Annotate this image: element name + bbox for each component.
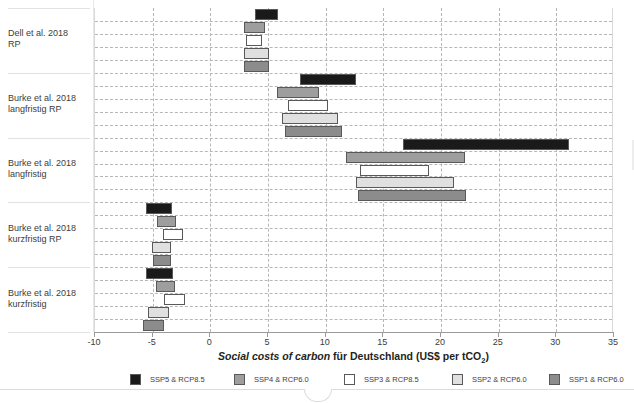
x-tick-label: -5	[148, 337, 156, 347]
gridline-horizontal	[95, 34, 612, 35]
gridline-horizontal	[95, 125, 612, 126]
range-bar	[153, 255, 171, 266]
gridline-horizontal	[95, 60, 612, 61]
viewer-bottom-bar	[0, 389, 634, 403]
range-bar	[288, 100, 328, 111]
legend-item[interactable]: SSP1 & RCP6.0	[549, 372, 624, 386]
legend-swatch-icon	[130, 374, 141, 385]
gridline-horizontal	[95, 254, 612, 255]
gridline-horizontal	[95, 306, 612, 307]
range-bar	[282, 113, 339, 124]
gridline-vertical	[556, 8, 557, 332]
range-bar	[300, 74, 355, 85]
legend: SSP5 & RCP8.5SSP4 & RCP6.0SSP3 & RCP8.5S…	[94, 372, 613, 386]
range-bar	[356, 177, 454, 188]
range-bar	[403, 139, 569, 150]
gridline-vertical	[441, 8, 442, 332]
gridline-vertical	[499, 8, 500, 332]
gridline-vertical	[153, 8, 154, 332]
gridline-vertical	[326, 8, 327, 332]
category-label-line1: Dell et al. 2018	[8, 28, 90, 39]
legend-item[interactable]: SSP5 & RCP8.5	[130, 372, 205, 386]
x-tick-label: 15	[377, 337, 387, 347]
range-bar	[246, 35, 262, 46]
range-bar	[358, 190, 466, 201]
category-label-line2: kurzfristig	[8, 299, 90, 310]
category-separator	[8, 73, 90, 74]
range-bar	[277, 87, 319, 98]
legend-label: SSP1 & RCP6.0	[569, 375, 624, 384]
gridline-horizontal	[95, 202, 612, 203]
category-label-line2: kurzfristig RP	[8, 234, 90, 245]
gridline-horizontal	[95, 176, 612, 177]
gridline-horizontal	[95, 47, 612, 48]
x-tick-label: 10	[320, 337, 330, 347]
range-bar	[146, 203, 173, 214]
category-label: Burke et al. 2018kurzfristig RP	[8, 223, 90, 245]
range-bar	[255, 9, 278, 20]
range-bar	[157, 216, 175, 227]
category-label: Dell et al. 2018RP	[8, 28, 90, 50]
category-label: Burke et al. 2018langfristig	[8, 158, 90, 180]
gridline-horizontal	[95, 164, 612, 165]
range-bar	[244, 22, 265, 33]
x-tick-label: 0	[207, 337, 212, 347]
range-bar	[244, 61, 269, 72]
range-bar	[164, 294, 185, 305]
x-tick-label: 25	[493, 337, 503, 347]
category-label-line2: langfristig RP	[8, 104, 90, 115]
x-axis-unit-prefix: (US$ per tCO	[416, 350, 481, 362]
category-label: Burke et al. 2018langfristig RP	[8, 93, 90, 115]
gridline-horizontal	[95, 99, 612, 100]
category-label-line2: langfristig	[8, 169, 90, 180]
gridline-horizontal	[95, 86, 612, 87]
x-tick-label: -10	[87, 337, 100, 347]
legend-swatch-icon	[549, 374, 560, 385]
plot-area	[94, 8, 613, 332]
legend-item[interactable]: SSP2 & RCP6.0	[452, 372, 527, 386]
gridline-horizontal	[95, 319, 612, 320]
range-bar	[156, 281, 174, 292]
legend-item[interactable]: SSP3 & RCP8.5	[344, 372, 419, 386]
x-tick-label: 20	[435, 337, 445, 347]
legend-label: SSP2 & RCP6.0	[472, 375, 527, 384]
category-separator	[8, 202, 90, 203]
x-tick-label: 35	[608, 337, 618, 347]
x-tick-label: 5	[264, 337, 269, 347]
legend-label: SSP4 & RCP6.0	[254, 375, 309, 384]
x-axis-title-italic: Social costs of carbon	[218, 350, 330, 362]
category-separator	[8, 332, 90, 333]
gridline-vertical	[210, 8, 211, 332]
legend-label: SSP5 & RCP8.5	[150, 375, 205, 384]
range-bar	[146, 268, 174, 279]
x-axis-title-plain: für Deutschland	[330, 350, 416, 362]
range-bar	[163, 229, 183, 240]
gridline-horizontal	[95, 112, 612, 113]
gridline-horizontal	[95, 241, 612, 242]
chart-container: Dell et al. 2018RPBurke et al. 2018langf…	[0, 0, 634, 403]
legend-swatch-icon	[234, 374, 245, 385]
legend-swatch-icon	[452, 374, 463, 385]
category-separator	[8, 8, 90, 9]
category-label-line1: Burke et al. 2018	[8, 288, 90, 299]
x-axis-unit-suffix: )	[485, 350, 489, 362]
gridline-horizontal	[95, 21, 612, 22]
range-bar	[152, 242, 172, 253]
legend-item[interactable]: SSP4 & RCP6.0	[234, 372, 309, 386]
range-bar	[346, 152, 465, 163]
range-bar	[360, 165, 429, 176]
category-label-line1: Burke et al. 2018	[8, 158, 90, 169]
category-label-line1: Burke et al. 2018	[8, 223, 90, 234]
legend-label: SSP3 & RCP8.5	[364, 375, 419, 384]
range-bar	[148, 307, 169, 318]
x-tick-label: 30	[550, 337, 560, 347]
category-label-line1: Burke et al. 2018	[8, 93, 90, 104]
category-label-line2: RP	[8, 39, 90, 50]
range-bar	[143, 320, 164, 331]
category-separator	[8, 138, 90, 139]
category-separator	[8, 267, 90, 268]
legend-swatch-icon	[344, 374, 355, 385]
category-label: Burke et al. 2018kurzfristig	[8, 288, 90, 310]
gridline-horizontal	[95, 189, 612, 190]
range-bar	[244, 48, 269, 59]
